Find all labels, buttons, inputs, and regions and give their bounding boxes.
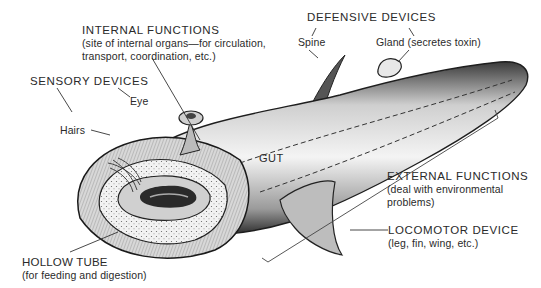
locomotor-device-label: LOCOMOTOR DEVICE (leg, fin, wing, etc.) [388, 224, 519, 250]
external-functions-desc-2: problems) [387, 196, 528, 209]
internal-functions-desc-2: transport, coordination, etc.) [82, 50, 266, 63]
eye-label: Eye [130, 95, 148, 108]
hairs-label: Hairs [60, 124, 85, 137]
cross-section-drawing [78, 137, 249, 258]
external-functions-title: EXTERNAL FUNCTIONS [387, 170, 528, 183]
sensory-devices-title: SENSORY DEVICES [30, 75, 149, 88]
locomotor-device-title: LOCOMOTOR DEVICE [388, 224, 519, 237]
locomotor-device-desc: (leg, fin, wing, etc.) [388, 237, 519, 250]
hollow-tube-desc: (for feeding and digestion) [22, 269, 147, 282]
spine-label: Spine [298, 36, 325, 49]
gland-label: Gland (secretes toxin) [376, 36, 481, 49]
hollow-tube-label: HOLLOW TUBE (for feeding and digestion) [22, 256, 147, 282]
gut-label: GUT [259, 152, 284, 165]
defensive-devices-title: DEFENSIVE DEVICES [307, 11, 436, 24]
internal-functions-desc-1: (site of internal organs—for circulation… [82, 37, 266, 50]
external-functions-desc-1: (deal with environmental [387, 183, 528, 196]
hollow-tube-title: HOLLOW TUBE [22, 256, 147, 269]
internal-functions-title: INTERNAL FUNCTIONS [82, 24, 266, 37]
external-functions-label: EXTERNAL FUNCTIONS (deal with environmen… [387, 170, 528, 209]
internal-functions-label: INTERNAL FUNCTIONS (site of internal org… [82, 24, 266, 63]
